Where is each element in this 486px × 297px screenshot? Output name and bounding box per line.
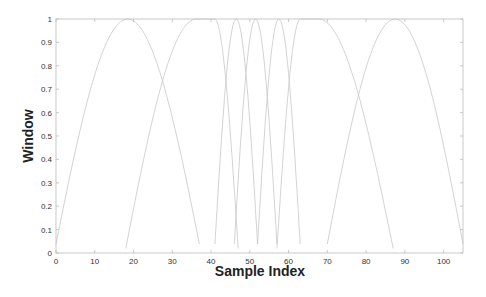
y-axis-label: Window [20,109,36,163]
x-tick-label: 80 [362,257,371,266]
y-tick-label: 0.4 [41,155,53,164]
y-tick-label: 0 [48,249,53,258]
axes: 010203040506070809010000.10.20.30.40.50.… [41,15,463,266]
window-6-curve [277,19,393,249]
y-tick-label: 0.7 [41,85,53,94]
y-tick-label: 0.8 [41,62,53,71]
x-tick-label: 90 [400,257,409,266]
x-tick-label: 100 [437,257,451,266]
x-tick-label: 30 [168,257,177,266]
y-tick-label: 0.3 [41,179,53,188]
y-tick-label: 0.1 [41,226,53,235]
y-tick-label: 0.9 [41,38,53,47]
chart: 010203040506070809010000.10.20.30.40.50.… [0,0,486,297]
y-tick-label: 1 [48,15,53,24]
y-tick-label: 0.5 [41,132,53,141]
x-tick-label: 20 [129,257,138,266]
window-1-curve [56,19,199,244]
window-5-curve [258,19,301,244]
window-7-curve [327,19,463,244]
y-tick-label: 0.6 [41,109,53,118]
window-2-curve [126,19,238,249]
x-tick-label: 10 [90,257,99,266]
window-curves [56,19,463,249]
x-tick-label: 70 [323,257,332,266]
x-axis-label: Sample Index [215,263,305,279]
x-tick-label: 0 [54,257,59,266]
y-tick-label: 0.2 [41,202,53,211]
